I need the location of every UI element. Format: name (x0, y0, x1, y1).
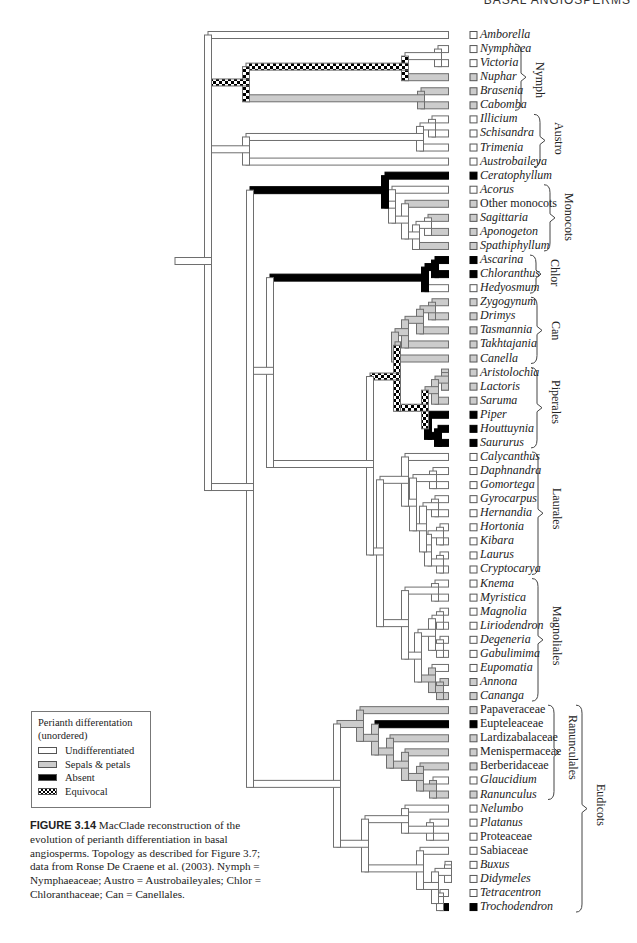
taxon-label: Trimenia (480, 141, 523, 154)
taxon-label: Tetracentron (480, 886, 541, 899)
legend: Perianth differentation (unordered) Undi… (31, 711, 151, 808)
legend-title: Perianth differentation (unordered) (38, 716, 144, 742)
legend-title-text: Perianth differentation (38, 717, 133, 728)
legend-label: Sepals & petals (65, 758, 130, 771)
tip-state-box-icon (470, 172, 477, 179)
tip-state-box-icon (470, 116, 477, 123)
taxon-label: Brasenia (480, 84, 523, 97)
taxon-label: Cryptocarya (480, 562, 541, 575)
tip-state-box-icon (470, 468, 477, 475)
taxon-label: Amborella (480, 28, 530, 41)
taxon-label: Cabomba (480, 98, 527, 111)
taxon-label: Buxus (480, 858, 509, 871)
taxon-label: Sagittaria (480, 211, 528, 224)
taxon-label: Hedyosmum (480, 281, 539, 294)
tip-state-box-icon (470, 819, 477, 826)
taxon-label: Tasmannia (480, 323, 532, 336)
taxon-label: Liriodendron (480, 619, 544, 632)
swatch-black-icon (38, 774, 57, 781)
clade-label: Magnoliales (549, 606, 564, 665)
tip-state-box-icon (470, 341, 477, 348)
taxon-label: Takhtajania (480, 337, 537, 350)
tip-state-box-icon (470, 763, 477, 770)
tip-state-box-icon (470, 693, 477, 700)
clade-brace-icon (531, 368, 542, 448)
tip-state-box-icon (470, 88, 477, 95)
taxon-label: Knema (480, 577, 514, 590)
taxon-label: Myristica (480, 591, 526, 604)
tip-state-box-icon (470, 510, 477, 517)
legend-item-undifferentiated: Undifferentiated (38, 744, 144, 758)
taxon-label: Austrobaileya (480, 155, 547, 168)
clade-label: Can (548, 321, 563, 340)
tip-state-box-icon (470, 538, 477, 545)
taxon-label: Saururus (480, 436, 524, 449)
tip-state-box-icon (470, 679, 477, 686)
taxon-label: Nuphar (480, 70, 517, 83)
taxon-label: Menispermaceae (480, 745, 561, 758)
taxon-label: Laurus (480, 548, 514, 561)
caption-text: MacClade reconstruction of the evolution… (30, 819, 261, 900)
swatch-checker-icon (38, 788, 57, 795)
tip-state-box-icon (470, 594, 477, 601)
tip-state-box-icon (470, 791, 477, 798)
taxon-label: Nymphaea (480, 42, 531, 55)
taxon-label: Illicium (480, 112, 517, 125)
tip-state-box-icon (470, 580, 477, 587)
taxon-label: Nelumbo (480, 802, 523, 815)
legend-label: Undifferentiated (65, 744, 134, 757)
tip-state-box-icon (470, 650, 477, 657)
legend-label: Absent (65, 771, 95, 784)
taxon-label: Glaucidium (480, 773, 537, 786)
legend-subtitle: (unordered) (38, 730, 88, 741)
taxon-label: Hernandia (480, 506, 532, 519)
tip-state-box-icon (470, 186, 477, 193)
tip-state-box-icon (470, 369, 477, 376)
tip-state-box-icon (470, 524, 477, 531)
taxon-label: Platanus (480, 816, 523, 829)
taxon-label: Eupteleaceae (480, 717, 543, 730)
tip-state-box-icon (470, 425, 477, 432)
tip-state-box-icon (470, 735, 477, 742)
legend-label: Equivocal (65, 785, 108, 798)
taxon-label: Ascarina (480, 253, 523, 266)
tip-state-box-icon (470, 242, 477, 249)
taxon-label: Saruma (480, 394, 517, 407)
taxon-label: Gabulimima (480, 647, 540, 660)
tip-state-box-icon (470, 74, 477, 81)
tip-state-box-icon (470, 777, 477, 784)
taxon-label: Hortonia (480, 520, 524, 533)
tip-state-box-icon (470, 299, 477, 306)
tip-state-box-icon (470, 552, 477, 559)
taxon-label: Victoria (480, 56, 518, 69)
tip-state-box-icon (470, 622, 477, 629)
tip-state-box-icon (470, 890, 477, 897)
tip-state-box-icon (470, 861, 477, 868)
taxon-label: Spathiphyllum (480, 239, 549, 252)
legend-item-sepals-petals: Sepals & petals (38, 758, 144, 772)
tip-state-box-icon (470, 749, 477, 756)
swatch-gray-icon (38, 761, 57, 768)
tip-state-box-icon (470, 32, 477, 39)
tip-state-box-icon (470, 664, 477, 671)
taxon-label: Eupomatia (480, 661, 533, 674)
figure-number: FIGURE 3.14 (30, 819, 96, 831)
taxon-label: Houttuynia (480, 422, 534, 435)
tip-state-box-icon (470, 397, 477, 404)
taxon-label: Piper (480, 408, 507, 421)
taxon-label: Didymeles (480, 872, 531, 885)
taxon-label: Zygogynum (480, 295, 536, 308)
taxon-label: Kibara (480, 534, 514, 547)
tip-state-box-icon (470, 833, 477, 840)
clade-label: Monocots (561, 193, 576, 241)
tip-state-box-icon (470, 721, 477, 728)
tip-state-box-icon (470, 355, 477, 362)
taxon-label: Lactoris (480, 380, 520, 393)
tip-state-box-icon (470, 60, 477, 67)
tip-state-box-icon (470, 144, 477, 151)
clade-label: Laurales (549, 488, 564, 529)
clade-label: Austro (551, 122, 566, 155)
tip-state-box-icon (470, 257, 477, 264)
tip-state-box-icon (470, 271, 477, 278)
taxon-label: Acorus (480, 183, 514, 196)
